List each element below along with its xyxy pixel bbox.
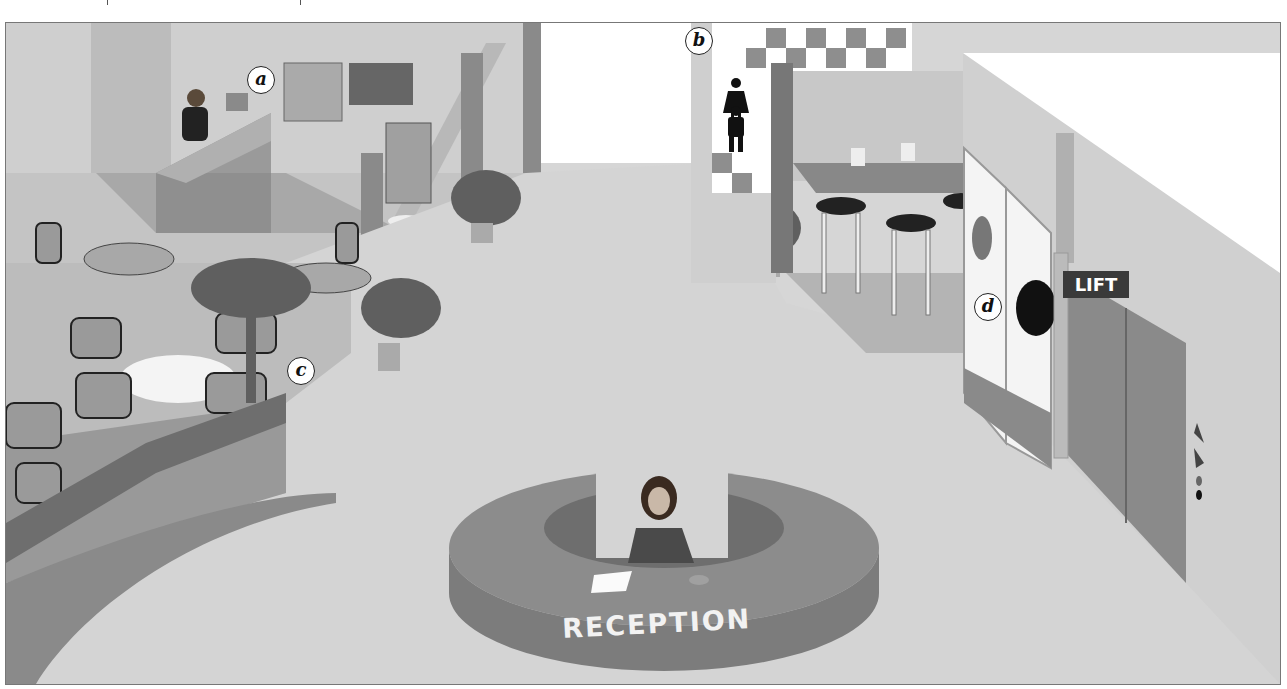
label-b: b	[685, 27, 713, 55]
label-c: c	[287, 357, 315, 385]
label-d: d	[974, 293, 1002, 321]
lobby-illustration: a b c d LIFT RECEPTION	[5, 22, 1281, 685]
crop-tick	[300, 0, 301, 5]
concierge-head	[187, 89, 205, 107]
lobby-scene	[6, 23, 1280, 684]
lift-sign: LIFT	[1063, 271, 1129, 298]
crop-tick	[107, 0, 108, 5]
label-a: a	[247, 66, 275, 94]
